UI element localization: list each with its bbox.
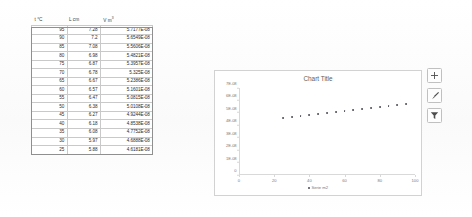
scatter-point[interactable]: [335, 111, 337, 113]
scatter-point[interactable]: [344, 110, 346, 112]
cell-volume[interactable]: 4.6181E-08: [100, 146, 152, 155]
table-row[interactable]: 957.285.7177E-08: [32, 26, 153, 35]
chart-container[interactable]: Chart Title 01E-082E-083E-084E-085E-086E…: [214, 70, 422, 196]
cell-temperature[interactable]: 30: [32, 137, 68, 146]
scatter-point[interactable]: [317, 113, 319, 115]
cell-length[interactable]: 6.08: [67, 129, 100, 138]
chart-styles-button[interactable]: [427, 88, 442, 103]
cell-length[interactable]: 6.38: [67, 103, 100, 112]
cell-volume[interactable]: 5.0815E-08: [100, 94, 152, 103]
cell-length[interactable]: 6.78: [67, 69, 100, 78]
table-row[interactable]: 406.184.8538E-08: [32, 120, 153, 129]
cell-temperature[interactable]: 80: [32, 52, 68, 61]
cell-volume[interactable]: 5.1601E-08: [100, 86, 152, 95]
table-header: t °C L cm V m3: [32, 17, 153, 26]
cell-temperature[interactable]: 75: [32, 60, 68, 69]
scatter-point[interactable]: [405, 103, 407, 105]
cell-length[interactable]: 5.88: [67, 146, 100, 155]
x-axis-tick-label: 60: [342, 178, 347, 183]
y-axis-tick-label: 0: [234, 168, 236, 173]
scatter-point[interactable]: [370, 107, 372, 109]
table-row[interactable]: 857.085.5606E-08: [32, 43, 153, 52]
y-axis-tick-label: 7E-08: [226, 81, 236, 86]
cell-volume[interactable]: 4.9244E-08: [100, 111, 152, 120]
cell-temperature[interactable]: 45: [32, 111, 68, 120]
table-row[interactable]: 506.385.0108E-08: [32, 103, 153, 112]
cell-length[interactable]: 5.97: [67, 137, 100, 146]
cell-volume[interactable]: 5.4821E-08: [100, 52, 152, 61]
scatter-point[interactable]: [379, 106, 381, 108]
cell-temperature[interactable]: 70: [32, 69, 68, 78]
cell-volume[interactable]: 4.6888E-08: [100, 137, 152, 146]
cell-volume[interactable]: 5.325E-08: [100, 69, 152, 78]
data-table: t °C L cm V m3 957.285.7177E-08907.25.65…: [31, 17, 153, 155]
cell-temperature[interactable]: 90: [32, 35, 68, 44]
cell-temperature[interactable]: 55: [32, 94, 68, 103]
cell-temperature[interactable]: 65: [32, 77, 68, 86]
data-table-region: t °C L cm V m3 957.285.7177E-08907.25.65…: [31, 17, 153, 155]
x-axis-tick-label: 20: [272, 178, 277, 183]
cell-temperature[interactable]: 60: [32, 86, 68, 95]
cell-volume[interactable]: 5.6549E-08: [100, 35, 152, 44]
x-axis-tick-label: 0: [238, 178, 240, 183]
y-axis-tick-mark: [237, 100, 239, 101]
y-axis-tick-label: 6E-08: [226, 93, 236, 98]
cell-volume[interactable]: 5.2386E-08: [100, 77, 152, 86]
cell-temperature[interactable]: 95: [32, 26, 68, 35]
y-axis-tick-label: 4E-08: [226, 118, 236, 123]
chart-title[interactable]: Chart Title: [215, 75, 421, 82]
cell-volume[interactable]: 5.3957E-08: [100, 60, 152, 69]
table-row[interactable]: 556.475.0815E-08: [32, 94, 153, 103]
cell-length[interactable]: 7.08: [67, 43, 100, 52]
cell-temperature[interactable]: 35: [32, 129, 68, 138]
scatter-point[interactable]: [326, 112, 328, 114]
cell-temperature[interactable]: 85: [32, 43, 68, 52]
cell-volume[interactable]: 5.7177E-08: [100, 26, 152, 35]
cell-temperature[interactable]: 25: [32, 146, 68, 155]
table-row[interactable]: 305.974.6888E-08: [32, 137, 153, 146]
scatter-point[interactable]: [352, 109, 354, 111]
x-axis-tick-label: 100: [412, 178, 419, 183]
chart-legend[interactable]: Serie m2: [215, 185, 421, 190]
table-row[interactable]: 706.785.325E-08: [32, 69, 153, 78]
cell-length[interactable]: 6.57: [67, 86, 100, 95]
cell-temperature[interactable]: 50: [32, 103, 68, 112]
scatter-point[interactable]: [291, 116, 293, 118]
cell-length[interactable]: 6.67: [67, 77, 100, 86]
table-row[interactable]: 907.25.6549E-08: [32, 35, 153, 44]
cell-length[interactable]: 6.98: [67, 52, 100, 61]
scatter-point[interactable]: [388, 105, 390, 107]
table-row[interactable]: 806.985.4821E-08: [32, 52, 153, 61]
table-row[interactable]: 356.084.7752E-08: [32, 129, 153, 138]
scatter-point[interactable]: [361, 108, 363, 110]
y-axis-tick-mark: [237, 149, 239, 150]
cell-volume[interactable]: 5.0108E-08: [100, 103, 152, 112]
y-axis-tick-label: 1E-08: [226, 155, 236, 160]
cell-length[interactable]: 7.28: [67, 26, 100, 35]
x-axis-tick-label: 40: [307, 178, 312, 183]
table-row[interactable]: 456.274.9244E-08: [32, 111, 153, 120]
cell-volume[interactable]: 5.5606E-08: [100, 43, 152, 52]
cell-length[interactable]: 6.18: [67, 120, 100, 129]
y-axis-tick-mark: [237, 125, 239, 126]
cell-length[interactable]: 7.2: [67, 35, 100, 44]
cell-length[interactable]: 6.87: [67, 60, 100, 69]
chart-elements-button[interactable]: [427, 68, 442, 83]
chart-plot-area[interactable]: 01E-082E-083E-084E-085E-086E-087E-080204…: [239, 88, 415, 175]
table-row[interactable]: 656.675.2386E-08: [32, 77, 153, 86]
chart-filters-button[interactable]: [427, 108, 442, 123]
table-row[interactable]: 756.875.3957E-08: [32, 60, 153, 69]
table-row[interactable]: 606.575.1601E-08: [32, 86, 153, 95]
scatter-point[interactable]: [308, 114, 310, 116]
scatter-point[interactable]: [282, 117, 284, 119]
cell-volume[interactable]: 4.7752E-08: [100, 129, 152, 138]
column-header-temperature-unit: °C: [37, 17, 42, 22]
scatter-point[interactable]: [300, 115, 302, 117]
cell-length[interactable]: 6.27: [67, 111, 100, 120]
cell-temperature[interactable]: 40: [32, 120, 68, 129]
cell-volume[interactable]: 4.8538E-08: [100, 120, 152, 129]
cell-length[interactable]: 6.47: [67, 94, 100, 103]
y-axis-line: [239, 88, 240, 175]
scatter-point[interactable]: [396, 104, 398, 106]
table-row[interactable]: 255.884.6181E-08: [32, 146, 153, 155]
